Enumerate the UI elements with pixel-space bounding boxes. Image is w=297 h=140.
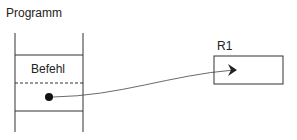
register-r1-box: [214, 56, 283, 84]
instruction-label: Befehl: [31, 62, 65, 76]
pointer-dot-icon: [45, 93, 53, 101]
arrowhead-icon: [228, 64, 237, 76]
register-label: R1: [217, 39, 232, 53]
program-label: Programm: [6, 6, 62, 20]
